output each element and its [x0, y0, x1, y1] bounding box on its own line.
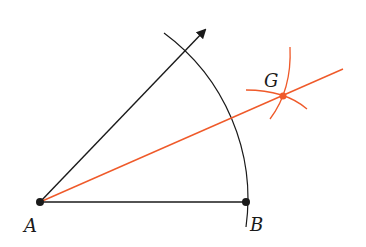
arc-centered-a: [164, 33, 248, 227]
label-a: A: [22, 215, 37, 236]
bisector-line: [40, 69, 343, 202]
ray-from-a: [40, 30, 205, 202]
construction-figure: A B G: [0, 0, 366, 247]
diagram-canvas: A B G: [0, 0, 366, 247]
point-b-marker: [242, 198, 250, 206]
label-b: B: [249, 214, 263, 235]
label-g: G: [264, 70, 278, 91]
point-g-marker: [280, 93, 287, 100]
point-a-marker: [36, 198, 44, 206]
construction-arc-2: [246, 90, 307, 109]
